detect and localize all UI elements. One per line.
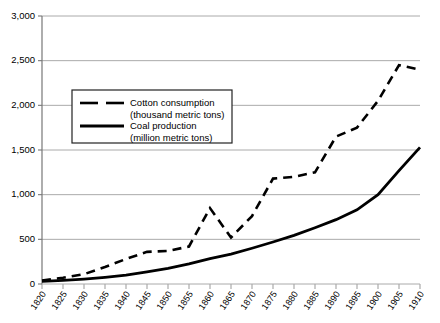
chart-background (0, 0, 440, 323)
legend-sublabel-coal: (million metric tons) (130, 132, 212, 143)
ytick-label-3000: 3,000 (11, 10, 35, 21)
chart-legend: Cotton consumption (thousand metric tons… (72, 90, 232, 143)
ytick-label-1500: 1,500 (11, 144, 35, 155)
ytick-label-1000: 1,000 (11, 188, 35, 199)
legend-label-cotton: Cotton consumption (130, 97, 215, 108)
ytick-label-2500: 2,500 (11, 54, 35, 65)
legend-label-coal: Coal production (130, 120, 197, 131)
ytick-label-500: 500 (19, 233, 35, 244)
chart-container: 05001,0001,5002,0002,5003,000 1820182518… (0, 0, 440, 323)
line-chart: 05001,0001,5002,0002,5003,000 1820182518… (0, 0, 440, 323)
ytick-label-0: 0 (30, 278, 35, 289)
legend-sublabel-cotton: (thousand metric tons) (130, 109, 225, 120)
ytick-label-2000: 2,000 (11, 99, 35, 110)
